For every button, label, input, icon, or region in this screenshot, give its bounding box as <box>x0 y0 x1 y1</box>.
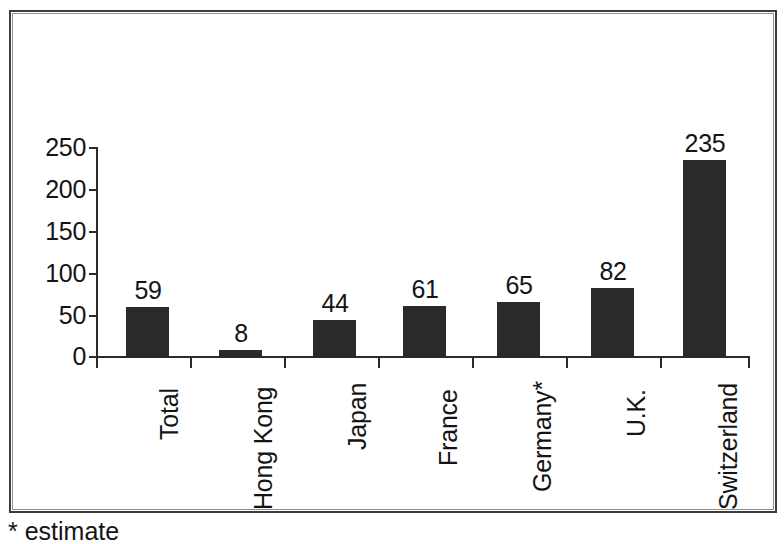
y-axis-tick <box>89 231 97 233</box>
y-axis-tick <box>89 147 97 149</box>
bar-value-total: 59 <box>112 278 184 303</box>
bar-value-germany: 65 <box>483 273 555 298</box>
x-axis-tick <box>284 357 286 368</box>
y-axis-tick-label: 100 <box>0 261 86 286</box>
x-axis-label-japan: Japan <box>345 383 370 450</box>
bar-total[interactable] <box>126 307 169 357</box>
bar-switzerland[interactable] <box>683 160 726 357</box>
bar-chart-plot: 250 200 150 100 50 0 59 8 44 61 65 82 23… <box>0 0 784 544</box>
x-axis-label-uk: U.K. <box>624 389 649 437</box>
bar-value-japan: 44 <box>299 291 371 316</box>
x-axis-tick <box>190 357 192 368</box>
y-axis-tick-label: 250 <box>0 135 86 160</box>
x-axis-tick <box>566 357 568 368</box>
x-axis-tick <box>660 357 662 368</box>
y-axis-tick-label: 50 <box>0 303 86 328</box>
x-axis-label-hong-kong: Hong Kong <box>251 387 276 510</box>
x-axis-label-germany: Germany* <box>530 381 555 492</box>
bar-france[interactable] <box>403 306 446 357</box>
bar-value-hong-kong: 8 <box>205 321 277 346</box>
x-axis-tick <box>748 357 750 368</box>
bar-japan[interactable] <box>313 320 356 357</box>
x-axis-tick <box>472 357 474 368</box>
bar-value-switzerland: 235 <box>669 131 741 156</box>
y-axis-tick-label: 150 <box>0 219 86 244</box>
x-axis-tick <box>96 357 98 368</box>
bar-hong-kong[interactable] <box>219 350 262 357</box>
y-axis-tick <box>89 315 97 317</box>
x-axis-tick <box>378 357 380 368</box>
footnote-estimate: * estimate <box>8 518 119 544</box>
x-axis-label-france: France <box>436 389 461 466</box>
y-axis-line <box>96 147 98 358</box>
bar-value-uk: 82 <box>577 259 649 284</box>
x-axis-label-total: Total <box>157 388 182 440</box>
x-axis-label-switzerland: Switzerland <box>716 383 741 510</box>
bar-uk[interactable] <box>591 288 634 357</box>
y-axis-tick <box>89 189 97 191</box>
y-axis-tick <box>89 273 97 275</box>
bar-germany[interactable] <box>497 302 540 357</box>
bar-value-france: 61 <box>389 277 461 302</box>
y-axis-tick-label: 0 <box>0 344 86 369</box>
y-axis-tick-label: 200 <box>0 177 86 202</box>
